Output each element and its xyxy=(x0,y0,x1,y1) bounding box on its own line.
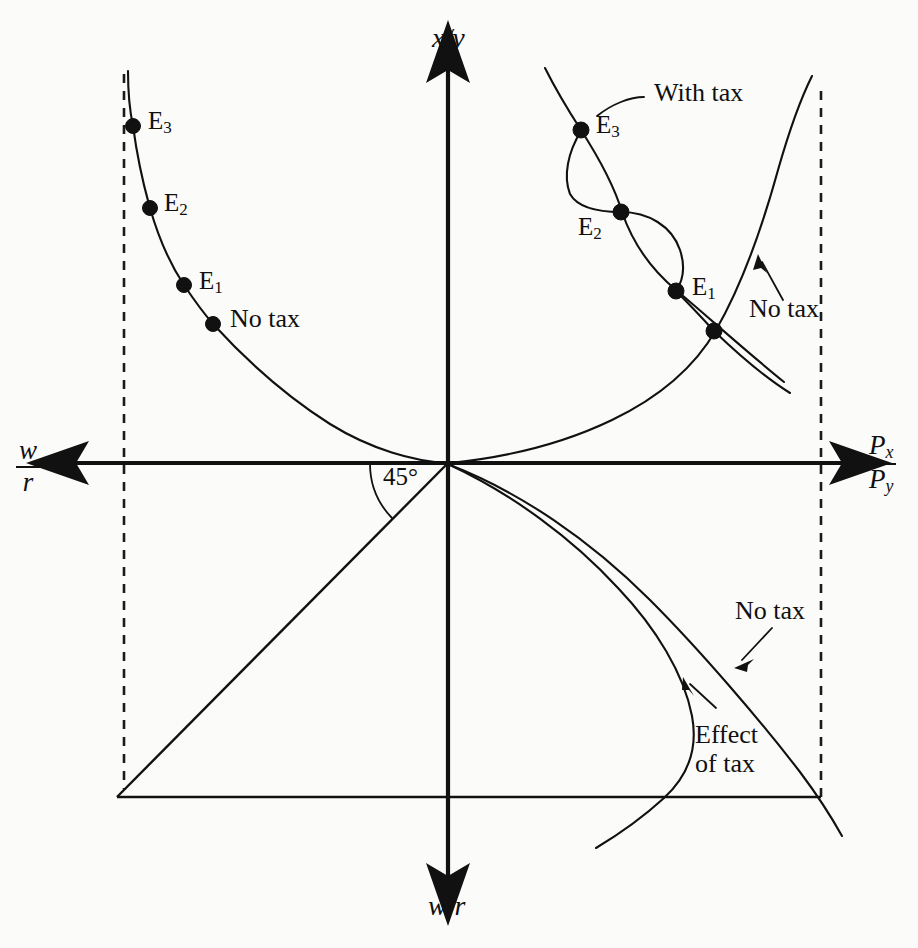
axis-label-right-numerator: Px xyxy=(866,432,896,465)
label-no-tax-upper-right: No tax xyxy=(749,296,819,322)
angle-label-45: 45° xyxy=(383,464,418,489)
label-effect-of-tax: Effect of tax xyxy=(695,720,758,778)
lower-right-no-tax-curve xyxy=(450,465,842,836)
point-intersection-upper-right xyxy=(706,323,722,339)
axis-label-top: x/y xyxy=(432,24,465,52)
label-e2-upper-right: E2 xyxy=(578,214,602,242)
axis-label-bottom: w/r xyxy=(428,892,465,920)
axis-label-right: Px Py xyxy=(866,432,896,495)
label-e2-upper-left: E2 xyxy=(164,190,188,218)
upper-right-with-tax-loop-upper xyxy=(567,131,621,212)
upper-left-no-tax-curve xyxy=(128,71,446,463)
label-e1-upper-left: E1 xyxy=(199,268,223,296)
lower-right-no-tax-arrowhead-icon xyxy=(734,659,754,672)
upper-right-no-tax-arrowhead-icon xyxy=(753,254,767,273)
upper-right-with-tax-loop-lower xyxy=(621,212,683,291)
label-no-tax-lower-right: No tax xyxy=(735,598,805,624)
forty-five-degree-line xyxy=(117,463,448,797)
upper-right-no-tax-curve xyxy=(450,76,812,463)
lower-right-no-tax-arrow-shaft xyxy=(742,628,772,660)
axis-label-left: w r xyxy=(16,437,40,496)
axis-label-right-denominator: Py xyxy=(866,465,896,496)
label-e1-upper-right: E1 xyxy=(692,274,716,302)
label-no-tax-upper-left: No tax xyxy=(230,306,300,332)
axis-label-left-denominator: r xyxy=(16,468,40,497)
label-with-tax: With tax xyxy=(654,80,743,106)
label-e3-upper-left: E3 xyxy=(148,108,172,136)
point-e1-upper-right xyxy=(668,283,684,299)
point-e3-upper-right xyxy=(573,122,589,138)
point-e2-upper-right xyxy=(613,204,629,220)
label-e3-upper-right: E3 xyxy=(596,112,620,140)
figure-root: x/y w/r w r Px Py 45° E3 E2 E1 No tax Wi… xyxy=(0,0,918,948)
point-e2-upper-left xyxy=(143,201,158,216)
axis-label-left-numerator: w xyxy=(16,437,40,468)
point-notax-upper-left xyxy=(206,317,221,332)
point-e3-upper-left xyxy=(126,119,141,134)
lower-right-effect-of-tax-curve xyxy=(450,465,694,848)
effect-of-tax-arrow-shaft xyxy=(690,684,716,708)
point-e1-upper-left xyxy=(177,278,192,293)
diagram-canvas xyxy=(0,0,918,948)
